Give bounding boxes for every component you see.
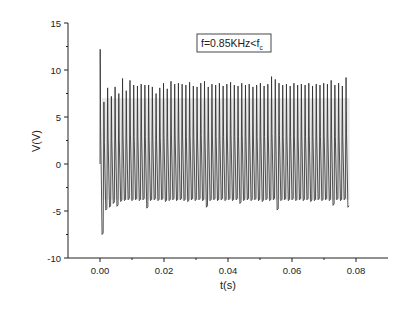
annotation-box: f=0.85KHz<fc — [197, 34, 271, 52]
y-tick-label: 0 — [56, 159, 61, 170]
y-tick-label: 10 — [50, 65, 61, 76]
svg-text:f=0.85KHz<fc: f=0.85KHz<fc — [201, 37, 263, 51]
x-tick-label: 0.06 — [283, 265, 302, 276]
y-tick-label: -5 — [53, 206, 61, 217]
x-tick-label: 0.08 — [347, 265, 366, 276]
y-axis-title: V(V) — [30, 130, 42, 152]
x-tick-label: 0.00 — [91, 265, 110, 276]
x-axis-title: t(s) — [220, 279, 236, 291]
annotation-text: f=0.85KHz<f — [201, 37, 259, 49]
chart: 151050-5-100.000.020.040.060.08 V(V) t(s… — [0, 0, 408, 311]
y-tick-label: 5 — [56, 112, 61, 123]
y-tick-label: -10 — [47, 253, 61, 264]
x-tick-label: 0.04 — [219, 265, 238, 276]
x-tick-label: 0.02 — [155, 265, 174, 276]
y-tick-label: 15 — [50, 18, 61, 29]
